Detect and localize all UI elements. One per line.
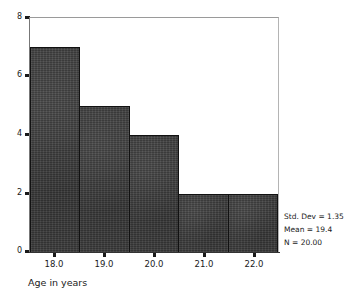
x-axis-label-20: 20.0 [134, 259, 174, 269]
x-axis-tick-20 [153, 253, 156, 257]
histogram-bar [129, 135, 179, 252]
histogram-bar [228, 194, 278, 253]
histogram-bar [30, 47, 80, 252]
statistics-annotation: Std. Dev = 1.35 Mean = 19.4 N = 20.00 [284, 210, 352, 249]
plot-area [29, 17, 279, 252]
bars-layer [30, 18, 278, 252]
x-axis-tick-21 [203, 253, 206, 257]
y-axis-label-6: 6 [2, 71, 22, 79]
histogram-bar [178, 194, 228, 253]
stat-n: N = 20.00 [284, 236, 352, 249]
histogram-bar [79, 106, 129, 252]
x-axis-label-19: 19.0 [84, 259, 124, 269]
x-axis-tick-18 [53, 253, 56, 257]
y-axis-label-4: 4 [2, 130, 22, 138]
x-axis-title: Age in years [28, 277, 87, 289]
y-axis-label-2: 2 [2, 189, 22, 197]
stat-std-dev: Std. Dev = 1.35 [284, 210, 352, 223]
x-axis-label-18: 18.0 [34, 259, 74, 269]
x-axis-tick-22 [253, 253, 256, 257]
x-axis-label-21: 21.0 [184, 259, 224, 269]
x-axis-tick-19 [103, 253, 106, 257]
histogram-chart: 8 6 4 2 0 18.0 19.0 20.0 21.0 22.0 Age i… [0, 0, 352, 298]
y-axis-label-8: 8 [2, 13, 22, 21]
stat-mean: Mean = 19.4 [284, 223, 352, 236]
y-axis-label-0: 0 [2, 247, 22, 255]
x-axis-label-22: 22.0 [234, 259, 274, 269]
